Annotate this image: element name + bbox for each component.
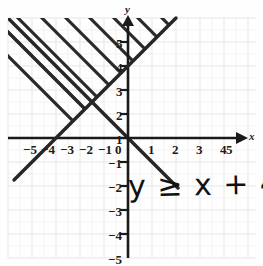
x-tick-label-5: 5 [226,143,233,156]
x-tick-label-1: 1 [148,143,155,156]
x-axis-label: x [249,131,255,142]
x-tick-label-neg3: −3 [60,143,74,156]
x-tick-label-neg1: −1 [98,143,112,156]
y-tick-label-5: 5 [116,37,123,50]
y-axis-label: y [125,4,130,15]
y-tick-label-neg2: −2 [108,181,122,194]
inequality-annotation: y ≥ x + 4 [128,168,263,201]
boundary-line-overlay [0,0,263,266]
x-tick-label-neg2: −2 [79,143,93,156]
y-tick-label-neg1: −1 [108,157,122,170]
y-tick-label-neg3: −3 [108,205,122,218]
y-tick-label-2: 2 [116,109,123,122]
x-tick-label-3: 3 [196,143,203,156]
x-tick-label-neg4: −4 [41,143,55,156]
y-tick-label-neg5: −5 [108,253,122,266]
graph-screenshot: 5 4 3 2 1 0 −1 −2 −3 −4 −5 −5 −4 −3 −2 −… [0,0,263,266]
y-tick-label-neg4: −4 [108,229,122,242]
x-tick-label-2: 2 [172,143,179,156]
x-tick-label-neg5: −5 [23,143,37,156]
y-tick-label-4: 4 [116,61,123,74]
origin-label: 0 [115,143,122,156]
y-tick-label-3: 3 [116,85,123,98]
